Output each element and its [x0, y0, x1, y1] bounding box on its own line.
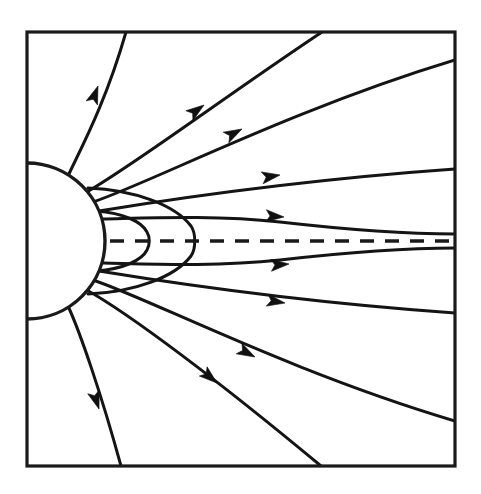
- field-line-diagram: [0, 0, 481, 494]
- figure-root: [0, 0, 481, 494]
